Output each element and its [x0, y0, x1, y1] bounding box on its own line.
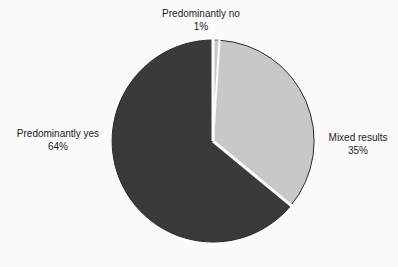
pie-label-mixed-results-value: 35% [322, 145, 394, 158]
pie-chart: Predominantly no 1% Predominantly yes 64… [0, 0, 398, 267]
pie-label-predominantly-no-value: 1% [4, 21, 398, 34]
pie-label-predominantly-yes-value: 64% [10, 141, 106, 154]
pie-label-mixed-results: Mixed results 35% [322, 132, 394, 157]
pie-label-mixed-results-name: Mixed results [322, 132, 394, 145]
pie-label-predominantly-yes-name: Predominantly yes [10, 128, 106, 141]
pie-label-predominantly-yes: Predominantly yes 64% [10, 128, 106, 153]
pie-label-predominantly-no: Predominantly no 1% [0, 8, 398, 33]
pie-label-predominantly-no-name: Predominantly no [4, 8, 398, 21]
